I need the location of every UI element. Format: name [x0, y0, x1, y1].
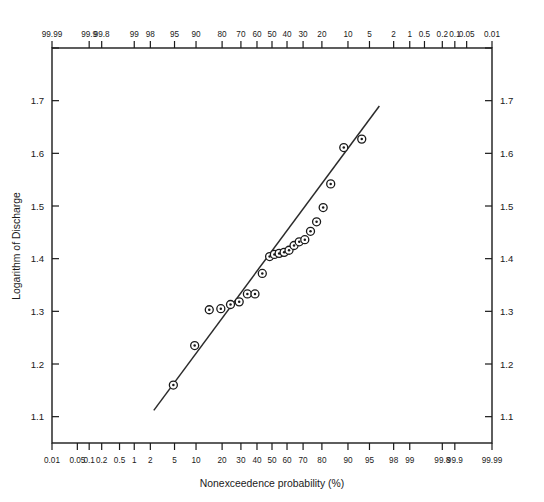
data-point — [301, 236, 309, 244]
left-tick-label: 1.5 — [31, 201, 44, 212]
data-point — [235, 298, 243, 306]
data-point — [243, 290, 251, 298]
bottom-tick-label: 99.99 — [482, 456, 503, 465]
bottom-tick-label: 99.9 — [447, 456, 463, 465]
right-tick-label: 1.5 — [500, 201, 513, 212]
bottom-tick-label: 0.1 — [83, 456, 95, 465]
right-tick-label: 1.2 — [500, 359, 513, 370]
top-tick-label: 99.8 — [94, 30, 110, 39]
top-tick-label: 99.99 — [42, 30, 63, 39]
plot-frame — [52, 48, 492, 443]
bottom-tick-label: 0.2 — [96, 456, 108, 465]
plot-canvas: 99.9999.999.8999895908070605040302010521… — [0, 0, 544, 502]
right-tick-label: 1.4 — [500, 253, 514, 264]
data-point — [251, 290, 259, 298]
y-axis-title: Logarithm of Discharge — [11, 192, 22, 300]
bottom-tick-label: 50 — [267, 456, 277, 465]
bottom-probability-axis: 0.010.050.10.20.512510203040506070809095… — [44, 443, 503, 465]
top-tick-label: 1 — [407, 30, 412, 39]
top-tick-label: 10 — [343, 30, 353, 39]
top-tick-label: 0.05 — [459, 30, 475, 39]
right-tick-label: 1.6 — [500, 148, 513, 159]
bottom-tick-label: 2 — [148, 456, 153, 465]
right-tick-label: 1.1 — [500, 411, 513, 422]
bottom-tick-label: 60 — [282, 456, 292, 465]
data-point-series — [169, 135, 365, 389]
bottom-tick-label: 5 — [172, 456, 177, 465]
bottom-tick-label: 1 — [132, 456, 137, 465]
data-point — [227, 300, 235, 308]
data-point — [319, 204, 327, 212]
bottom-tick-label: 0.01 — [44, 456, 60, 465]
top-tick-label: 20 — [317, 30, 327, 39]
top-tick-label: 5 — [367, 30, 372, 39]
left-tick-label: 1.7 — [31, 95, 44, 106]
top-tick-label: 40 — [282, 30, 292, 39]
top-tick-label: 2 — [391, 30, 396, 39]
bottom-tick-label: 40 — [252, 456, 262, 465]
top-tick-label: 98 — [146, 30, 156, 39]
data-point — [327, 180, 335, 188]
data-point — [307, 227, 315, 235]
data-point — [313, 218, 321, 226]
data-point — [217, 305, 225, 313]
bottom-tick-label: 20 — [218, 456, 228, 465]
bottom-tick-label: 0.5 — [114, 456, 126, 465]
top-tick-label: 0.2 — [437, 30, 449, 39]
left-tick-label: 1.2 — [31, 359, 44, 370]
probability-plot-chart: 99.9999.999.8999895908070605040302010521… — [0, 0, 544, 502]
top-tick-label: 0.01 — [484, 30, 500, 39]
top-tick-label: 30 — [299, 30, 309, 39]
top-tick-label: 80 — [218, 30, 228, 39]
left-value-axis: 1.11.21.31.41.51.61.7 — [31, 48, 59, 422]
bottom-tick-label: 98 — [389, 456, 399, 465]
data-point — [340, 144, 348, 152]
top-tick-label: 95 — [170, 30, 180, 39]
data-point — [258, 269, 266, 277]
top-probability-axis: 99.9999.999.8999895908070605040302010521… — [42, 30, 501, 48]
top-tick-label: 90 — [191, 30, 201, 39]
left-tick-label: 1.4 — [31, 253, 45, 264]
top-tick-label: 99 — [130, 30, 140, 39]
bottom-tick-label: 70 — [299, 456, 309, 465]
data-point — [205, 306, 213, 314]
top-tick-label: 50 — [267, 30, 277, 39]
bottom-tick-label: 90 — [343, 456, 353, 465]
top-tick-label: 70 — [236, 30, 246, 39]
bottom-tick-label: 10 — [191, 456, 201, 465]
data-point — [191, 342, 199, 350]
left-tick-label: 1.1 — [31, 411, 44, 422]
left-tick-label: 1.3 — [31, 306, 44, 317]
left-tick-label: 1.6 — [31, 148, 44, 159]
bottom-tick-label: 30 — [236, 456, 246, 465]
bottom-tick-label: 80 — [317, 456, 327, 465]
bottom-tick-label: 99 — [405, 456, 415, 465]
right-value-axis: 1.11.21.31.41.51.61.7 — [485, 48, 514, 422]
right-tick-label: 1.7 — [500, 95, 513, 106]
top-tick-label: 60 — [252, 30, 262, 39]
right-tick-label: 1.3 — [500, 306, 513, 317]
bottom-tick-label: 95 — [365, 456, 375, 465]
data-point — [169, 381, 177, 389]
data-point — [358, 135, 366, 143]
top-tick-label: 0.5 — [419, 30, 431, 39]
x-axis-title: Nonexceedence probability (%) — [200, 478, 344, 489]
